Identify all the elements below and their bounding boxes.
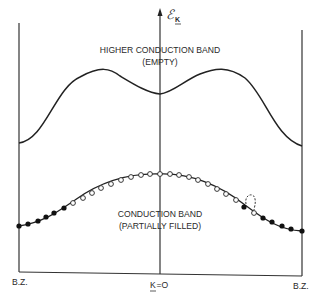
band-diagram: ℰ K HIGHER CONDUCTION BAND (EMPTY) CONDU… bbox=[0, 0, 319, 302]
higher-band-subtitle: (EMPTY) bbox=[142, 57, 177, 67]
transition-arrow bbox=[246, 195, 256, 210]
energy-axis-label: ℰ bbox=[166, 7, 175, 22]
energy-axis-subscript: K bbox=[175, 16, 180, 23]
conduction-band-subtitle: (PARTIALLY FILLED) bbox=[119, 221, 201, 231]
k-zero-rest: =O bbox=[157, 280, 169, 290]
right-zone-label: B.Z. bbox=[293, 281, 309, 291]
left-zone-label: B.Z. bbox=[12, 277, 28, 287]
conduction-band-title: CONDUCTION BAND bbox=[118, 209, 203, 219]
k-zero-k: K bbox=[150, 280, 156, 290]
higher-band-title: HIGHER CONDUCTION BAND bbox=[100, 45, 220, 55]
arrow-up-icon bbox=[158, 8, 163, 16]
